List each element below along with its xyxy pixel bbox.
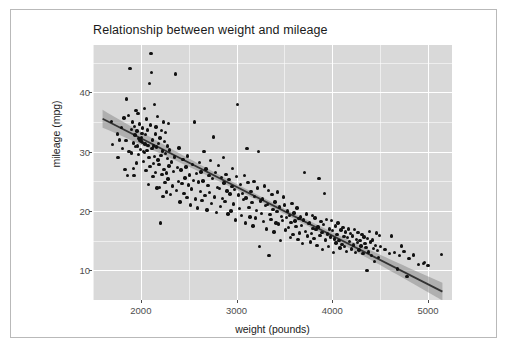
scatter-point (141, 126, 144, 129)
scatter-point (204, 167, 207, 170)
scatter-point (138, 122, 141, 125)
scatter-point (351, 234, 354, 237)
scatter-point (172, 170, 175, 173)
scatter-point (222, 181, 225, 184)
scatter-point (180, 182, 183, 185)
y-axis-tick-label: 20 (64, 206, 90, 217)
scatter-point (335, 233, 338, 236)
scatter-point (126, 174, 129, 177)
scatter-point (159, 221, 162, 224)
x-axis-label: weight (pounds) (93, 323, 452, 335)
scatter-point (210, 202, 213, 205)
scatter-point (236, 103, 239, 106)
scatter-point (122, 116, 125, 119)
scatter-point (124, 139, 127, 142)
scatter-point (412, 253, 415, 256)
scatter-point (250, 201, 253, 204)
scatter-point (222, 156, 225, 159)
scatter-point (131, 120, 134, 123)
scatter-point (127, 114, 130, 117)
scatter-point (237, 193, 240, 196)
scatter-point (193, 120, 196, 123)
scatter-point (147, 156, 150, 159)
scatter-point (254, 216, 257, 219)
scatter-point (202, 150, 205, 153)
scatter-point (388, 252, 391, 255)
scatter-point (296, 238, 299, 241)
scatter-point (110, 120, 113, 123)
scatter-point (166, 144, 169, 147)
scatter-point (151, 175, 154, 178)
scatter-point (350, 247, 353, 250)
scatter-point (305, 212, 308, 215)
scatter-point (272, 230, 275, 233)
scatter-point (245, 147, 248, 150)
scatter-point (234, 218, 237, 221)
scatter-point (252, 180, 255, 183)
scatter-point (116, 156, 119, 159)
scatter-point (298, 231, 301, 234)
scatter-point (269, 218, 272, 221)
scatter-point (238, 207, 241, 210)
scatter-point (313, 216, 316, 219)
y-axis-tick-mark (89, 270, 92, 271)
scatter-point (229, 209, 232, 212)
scatter-point (206, 184, 209, 187)
scatter-point (345, 250, 348, 253)
scatter-point (182, 192, 185, 195)
y-axis-tick-mark (89, 92, 92, 93)
scatter-point (310, 232, 313, 235)
scatter-point (133, 133, 136, 136)
scatter-point (218, 187, 221, 190)
scatter-point (227, 178, 230, 181)
scatter-point (330, 219, 333, 222)
scatter-point (150, 71, 153, 74)
scatter-point (426, 264, 429, 267)
scatter-point (231, 167, 234, 170)
scatter-point (148, 82, 151, 85)
scatter-point (146, 128, 149, 131)
scatter-point (165, 190, 168, 193)
scatter-point (121, 147, 124, 150)
scatter-point (324, 238, 327, 241)
scatter-point (175, 189, 178, 192)
scatter-point (267, 189, 270, 192)
scatter-point (270, 193, 273, 196)
scatter-point (169, 193, 172, 196)
y-axis-tick-label: 10 (64, 265, 90, 276)
scatter-point (255, 209, 258, 212)
scatter-point (233, 188, 236, 191)
scatter-point (188, 173, 191, 176)
scatter-point (346, 236, 349, 239)
scatter-point (308, 221, 311, 224)
scatter-point (266, 203, 269, 206)
scatter-point (132, 174, 135, 177)
scatter-point (289, 236, 292, 239)
scatter-point (178, 200, 181, 203)
scatter-point (405, 275, 408, 278)
scatter-point (189, 203, 192, 206)
chart-title: Relationship between weight and mileage (93, 23, 328, 37)
scatter-point (153, 103, 156, 106)
scatter-point (325, 218, 328, 221)
scatter-point (132, 167, 135, 170)
scatter-point (277, 222, 280, 225)
y-axis-tick-mark (89, 211, 92, 212)
scatter-point (253, 195, 256, 198)
scatter-point (348, 240, 351, 243)
scatter-point (228, 192, 231, 195)
scatter-point (224, 173, 227, 176)
scatter-point (320, 231, 323, 234)
scatter-point (258, 245, 261, 248)
scatter-point (154, 132, 157, 135)
scatter-point (315, 244, 318, 247)
y-axis-tick-label: 30 (64, 146, 90, 157)
scatter-point (336, 221, 339, 224)
scatter-point (407, 257, 410, 260)
scatter-point (149, 52, 152, 55)
scatter-point (293, 219, 296, 222)
scatter-point (318, 234, 321, 237)
scatter-point (135, 129, 138, 132)
scatter-point (374, 244, 377, 247)
scatter-point (191, 163, 194, 166)
